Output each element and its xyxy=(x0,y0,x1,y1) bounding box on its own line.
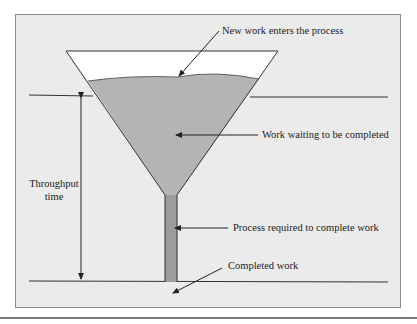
completed-arrow xyxy=(173,268,222,293)
funnel-tube xyxy=(165,195,177,282)
label-throughput-time: time xyxy=(26,191,82,203)
label-work-waiting: Work waiting to be completed xyxy=(262,129,389,141)
label-throughput: Throughput xyxy=(26,178,82,190)
funnel-diagram xyxy=(0,0,417,324)
label-completed-work: Completed work xyxy=(228,260,298,272)
label-new-work: New work enters the process xyxy=(222,25,343,37)
top-reference-line xyxy=(29,95,93,96)
label-process-required: Process required to complete work xyxy=(233,222,379,234)
bottom-reference-line xyxy=(29,281,388,282)
